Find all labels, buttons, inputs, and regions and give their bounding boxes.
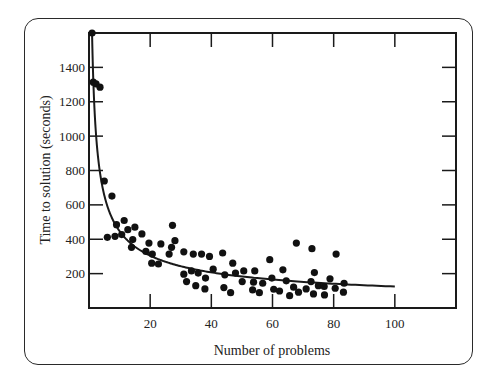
data-point bbox=[333, 250, 340, 257]
data-point bbox=[129, 236, 136, 243]
x-tick-label: 40 bbox=[205, 316, 218, 331]
data-point bbox=[128, 244, 135, 251]
data-point bbox=[168, 244, 175, 251]
data-point bbox=[256, 289, 263, 296]
data-point bbox=[157, 240, 164, 247]
data-point bbox=[190, 250, 197, 257]
data-point bbox=[310, 290, 317, 297]
data-point bbox=[221, 271, 228, 278]
data-point bbox=[195, 270, 202, 277]
x-tick-label: 20 bbox=[144, 316, 157, 331]
y-tick-label: 1400 bbox=[59, 60, 85, 75]
data-point bbox=[121, 217, 128, 224]
data-point bbox=[180, 271, 187, 278]
data-point bbox=[283, 277, 290, 284]
data-point bbox=[155, 260, 162, 267]
x-tick-label: 100 bbox=[385, 316, 405, 331]
data-point bbox=[104, 234, 111, 241]
data-point bbox=[251, 267, 258, 274]
data-point bbox=[321, 283, 328, 290]
data-point bbox=[166, 250, 173, 257]
data-point bbox=[332, 285, 339, 292]
x-tick-label: 80 bbox=[327, 316, 340, 331]
x-tick-label: 60 bbox=[266, 316, 279, 331]
data-point bbox=[268, 274, 275, 281]
data-point bbox=[180, 248, 187, 255]
data-point bbox=[210, 266, 217, 273]
data-point bbox=[169, 222, 176, 229]
data-point bbox=[308, 245, 315, 252]
data-point bbox=[232, 270, 239, 277]
data-point bbox=[321, 291, 328, 298]
y-tick-label: 1200 bbox=[59, 94, 85, 109]
data-point bbox=[227, 289, 234, 296]
x-axis-label: Number of problems bbox=[214, 343, 331, 358]
data-point bbox=[88, 29, 95, 36]
y-tick-label: 200 bbox=[66, 266, 86, 281]
data-point bbox=[192, 282, 199, 289]
data-point bbox=[311, 269, 318, 276]
data-point bbox=[295, 289, 302, 296]
data-point bbox=[108, 193, 115, 200]
data-point bbox=[240, 267, 247, 274]
data-point bbox=[219, 249, 226, 256]
data-point bbox=[131, 224, 138, 231]
data-point bbox=[96, 84, 103, 91]
data-point bbox=[326, 275, 333, 282]
data-point bbox=[145, 239, 152, 246]
data-point bbox=[229, 260, 236, 267]
y-tick-labels: 200400600800100012001400 bbox=[59, 60, 85, 281]
data-point bbox=[276, 287, 283, 294]
data-point bbox=[142, 248, 149, 255]
y-tick-label: 800 bbox=[66, 163, 86, 178]
y-tick-label: 400 bbox=[66, 232, 86, 247]
data-points bbox=[88, 29, 347, 299]
x-tick-labels: 20406080100 bbox=[144, 316, 405, 331]
data-point bbox=[220, 284, 227, 291]
data-point bbox=[201, 285, 208, 292]
data-point bbox=[171, 237, 178, 244]
y-axis-label: Time to solution (seconds) bbox=[38, 95, 54, 245]
data-point bbox=[340, 289, 347, 296]
data-point bbox=[279, 266, 286, 273]
data-point bbox=[118, 231, 125, 238]
data-point bbox=[250, 279, 257, 286]
data-point bbox=[239, 278, 246, 285]
data-point bbox=[113, 221, 120, 228]
data-point bbox=[149, 250, 156, 257]
data-point bbox=[206, 253, 213, 260]
y-tick-label: 600 bbox=[66, 197, 86, 212]
data-point bbox=[124, 226, 131, 233]
data-point bbox=[188, 267, 195, 274]
data-point bbox=[293, 239, 300, 246]
plot-box bbox=[89, 33, 456, 308]
data-point bbox=[249, 286, 256, 293]
data-point bbox=[340, 280, 347, 287]
fitted-curve bbox=[92, 33, 395, 287]
data-point bbox=[101, 177, 108, 184]
data-point bbox=[148, 260, 155, 267]
data-point bbox=[111, 233, 118, 240]
data-point bbox=[138, 230, 145, 237]
y-tick-label: 1000 bbox=[59, 129, 85, 144]
scatter-chart: 20406080100 200400600800100012001400 Num… bbox=[0, 0, 496, 386]
data-point bbox=[198, 250, 205, 257]
data-point bbox=[183, 278, 190, 285]
data-point bbox=[307, 278, 314, 285]
data-point bbox=[266, 256, 273, 263]
data-point bbox=[259, 280, 266, 287]
ticks bbox=[89, 33, 456, 308]
data-point bbox=[202, 274, 209, 281]
data-point bbox=[286, 292, 293, 299]
axes bbox=[89, 33, 456, 308]
data-point bbox=[303, 285, 310, 292]
